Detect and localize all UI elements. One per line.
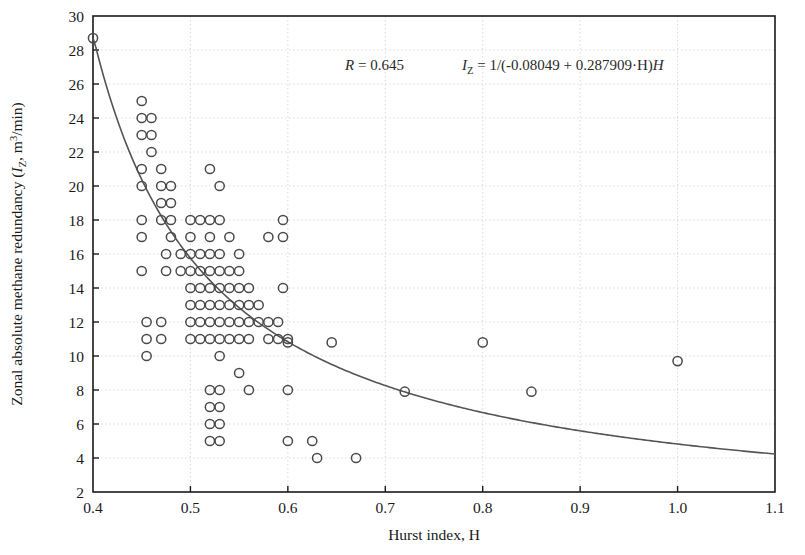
data-point: [157, 198, 166, 207]
data-point: [205, 300, 214, 309]
data-point: [205, 266, 214, 275]
x-tick-label: 0.6: [278, 499, 298, 516]
data-point: [166, 198, 175, 207]
data-point: [215, 385, 224, 394]
chart-figure: 246810121416182022242628300.40.50.60.70.…: [0, 0, 805, 555]
data-point: [205, 215, 214, 224]
y-axis-title: Zonal absolute methane redundancy (IZ, m…: [8, 102, 28, 406]
data-point: [147, 147, 156, 156]
data-point: [225, 300, 234, 309]
data-point: [274, 317, 283, 326]
data-point: [157, 181, 166, 190]
data-point: [137, 164, 146, 173]
y-axis: 24681012141618202224262830: [69, 8, 100, 501]
data-point: [161, 249, 170, 258]
data-point: [308, 436, 317, 445]
data-point: [137, 96, 146, 105]
data-point: [186, 232, 195, 241]
x-tick-label: 1.1: [765, 499, 784, 516]
y-tick-label: 12: [69, 314, 85, 331]
x-tick-label: 0.9: [570, 499, 590, 516]
data-point: [176, 249, 185, 258]
data-point: [215, 181, 224, 190]
data-point: [142, 317, 151, 326]
data-point: [225, 334, 234, 343]
data-point: [88, 34, 97, 43]
data-point: [205, 436, 214, 445]
data-point: [186, 317, 195, 326]
data-point: [235, 266, 244, 275]
data-point: [244, 385, 253, 394]
data-point: [244, 283, 253, 292]
data-point: [186, 283, 195, 292]
data-point: [225, 283, 234, 292]
y-tick-label: 28: [69, 42, 85, 59]
data-point: [142, 334, 151, 343]
data-point: [312, 453, 321, 462]
data-point: [215, 317, 224, 326]
data-point: [673, 357, 682, 366]
data-point: [283, 385, 292, 394]
regression-curve: [93, 38, 775, 454]
data-point: [215, 351, 224, 360]
data-point: [215, 215, 224, 224]
x-axis-title: Hurst index, H: [388, 526, 480, 543]
data-point: [478, 338, 487, 347]
y-tick-label: 26: [69, 76, 85, 93]
data-point: [166, 232, 175, 241]
data-point: [244, 300, 253, 309]
data-point: [205, 419, 214, 428]
data-point: [235, 334, 244, 343]
data-point: [327, 338, 336, 347]
data-point: [137, 232, 146, 241]
data-point: [196, 266, 205, 275]
data-point: [196, 334, 205, 343]
data-point: [205, 317, 214, 326]
data-point: [166, 215, 175, 224]
y-tick-label: 10: [69, 348, 85, 365]
y-tick-label: 24: [69, 110, 85, 127]
data-point: [264, 317, 273, 326]
data-point: [254, 317, 263, 326]
data-point: [215, 283, 224, 292]
y-tick-label: 30: [69, 8, 85, 25]
data-point: [235, 249, 244, 258]
data-point: [137, 266, 146, 275]
y-tick-label: 16: [69, 246, 85, 263]
data-point: [157, 164, 166, 173]
y-tick-label: 4: [76, 450, 84, 467]
data-point: [186, 215, 195, 224]
data-point: [215, 334, 224, 343]
data-point: [205, 283, 214, 292]
x-tick-label: 1.0: [668, 499, 688, 516]
data-point: [142, 351, 151, 360]
y-tick-label: 22: [69, 144, 85, 161]
data-point: [166, 181, 175, 190]
data-point: [147, 130, 156, 139]
x-tick-label: 0.5: [181, 499, 201, 516]
data-point: [176, 266, 185, 275]
data-point: [235, 317, 244, 326]
data-point: [235, 300, 244, 309]
data-point: [215, 419, 224, 428]
data-point: [196, 215, 205, 224]
data-point: [205, 385, 214, 394]
y-tick-label: 2: [76, 484, 84, 501]
data-point: [235, 283, 244, 292]
data-point: [225, 317, 234, 326]
data-point: [161, 266, 170, 275]
data-point: [235, 368, 244, 377]
data-point: [283, 436, 292, 445]
scatter-plot: 246810121416182022242628300.40.50.60.70.…: [0, 0, 805, 555]
data-point: [400, 387, 409, 396]
y-tick-label: 8: [76, 382, 84, 399]
data-point: [205, 402, 214, 411]
data-point: [205, 249, 214, 258]
data-point: [147, 113, 156, 122]
data-point: [196, 300, 205, 309]
data-point: [205, 232, 214, 241]
data-point: [215, 436, 224, 445]
x-tick-label: 0.4: [83, 499, 103, 516]
data-point: [137, 113, 146, 122]
data-point: [157, 317, 166, 326]
